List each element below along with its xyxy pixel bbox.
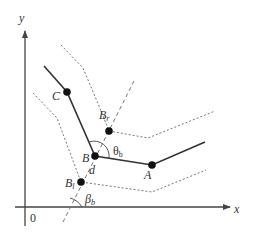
label-b-right: Br [99,109,109,123]
origin-label: 0 [30,212,36,224]
point-b [91,152,99,160]
angle-bisector-line [63,81,134,222]
beta-angle-arc [70,198,82,207]
point-b-right [105,127,113,135]
distance-label: d [89,164,95,176]
theta-label: θb [113,145,123,159]
label-a: A [144,169,151,181]
road-geometry-diagram: y x 0 C B A Br Bl d θb βb [0,0,253,235]
point-b-left [77,178,85,186]
centerline-polyline [44,66,205,165]
point-c [63,88,71,96]
x-axis-label: x [234,203,239,215]
theta-sub: b [119,150,123,159]
label-b-left-sub: l [72,182,74,191]
y-axis-label: y [19,12,24,24]
label-c: C [52,90,60,102]
beta-sub: b [91,198,95,207]
upper-offset-boundary [61,45,215,138]
label-b-left: Bl [65,177,75,191]
label-b-right-sub: r [106,114,109,123]
diagram-graphics [0,0,253,235]
lower-offset-boundary [33,93,206,192]
beta-label: βb [85,193,95,207]
